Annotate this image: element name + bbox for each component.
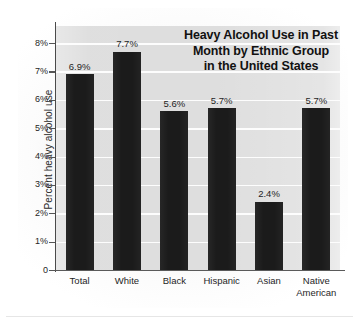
- y-tick-mark-8: [49, 43, 55, 44]
- bar-value-label-white: 7.7%: [101, 39, 153, 49]
- bar-white: [113, 52, 141, 270]
- y-tick-label-wrap-5: 5%: [14, 124, 48, 133]
- y-tick-label-wrap-0: 0: [14, 266, 48, 275]
- y-tick-label-wrap-7: 7%: [14, 67, 48, 76]
- gridline-5: [56, 128, 340, 130]
- y-tick-label-4: 4%: [22, 152, 48, 161]
- y-tick-label-3: 3%: [22, 180, 48, 189]
- bar-native-american: [302, 108, 330, 270]
- gridline-1: [56, 242, 340, 244]
- y-tick-label-1: 1%: [22, 237, 48, 246]
- y-tick-mark-2: [49, 213, 55, 214]
- y-tick-label-wrap-6: 6%: [14, 95, 48, 104]
- y-tick-mark-1: [49, 242, 55, 243]
- chart-title-line-1: Heavy Alcohol Use in Past: [168, 28, 354, 44]
- y-tick-mark-3: [49, 185, 55, 186]
- bar-value-label-asian: 2.4%: [243, 189, 295, 199]
- y-tick-label-8: 8%: [22, 39, 48, 48]
- y-tick-label-2: 2%: [22, 209, 48, 218]
- category-label-line-1: Native: [286, 275, 346, 287]
- gridline-3: [56, 185, 340, 187]
- bar-black: [160, 111, 188, 270]
- y-tick-mark-0: [49, 270, 55, 271]
- bar-hispanic: [208, 108, 236, 270]
- gridline-2: [56, 213, 340, 215]
- y-tick-label-6: 6%: [22, 95, 48, 104]
- bar-asian: [255, 202, 283, 270]
- bar-value-label-hispanic: 5.7%: [196, 96, 248, 106]
- y-tick-label-7: 7%: [22, 67, 48, 76]
- bar-value-label-total: 6.9%: [54, 62, 106, 72]
- y-axis-title: Percent heavy alcohol use: [43, 50, 54, 250]
- x-axis-line: [49, 270, 345, 271]
- chart-figure: Percent heavy alcohol use 01%2%3%4%5%6%7…: [0, 0, 359, 323]
- y-tick-mark-5: [49, 128, 55, 129]
- y-tick-label-wrap-8: 8%: [14, 39, 48, 48]
- y-axis-line: [55, 22, 56, 272]
- chart-title-line-2: Month by Ethnic Group: [168, 44, 354, 60]
- chart-title-line-3: in the United States: [168, 59, 354, 75]
- y-tick-label-wrap-3: 3%: [14, 180, 48, 189]
- y-tick-label-wrap-4: 4%: [14, 152, 48, 161]
- category-label-line-2: American: [286, 287, 346, 299]
- y-tick-mark-4: [49, 157, 55, 158]
- y-tick-label-5: 5%: [22, 124, 48, 133]
- gridline-4: [56, 157, 340, 159]
- y-tick-label-wrap-1: 1%: [14, 237, 48, 246]
- bar-value-label-native-american: 5.7%: [290, 96, 342, 106]
- bar-total: [66, 74, 94, 270]
- bar-value-label-black: 5.6%: [148, 99, 200, 109]
- y-tick-label-0: 0: [22, 266, 48, 275]
- y-tick-mark-6: [49, 100, 55, 101]
- y-tick-label-wrap-2: 2%: [14, 209, 48, 218]
- category-label-native-american: NativeAmerican: [286, 275, 346, 298]
- chart-title: Heavy Alcohol Use in PastMonth by Ethnic…: [168, 28, 354, 75]
- footer-rule: [6, 316, 353, 317]
